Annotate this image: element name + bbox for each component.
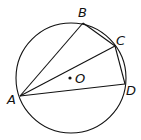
label-b: B xyxy=(78,5,87,20)
segment-bc xyxy=(83,23,115,46)
segment-cd xyxy=(115,46,125,84)
segment-da xyxy=(20,84,125,96)
segment-ac xyxy=(20,46,115,96)
label-o: O xyxy=(75,71,85,86)
label-c: C xyxy=(116,33,126,48)
geometry-diagram: A B C D O xyxy=(0,0,141,140)
label-d: D xyxy=(126,83,136,98)
center-point-o xyxy=(68,76,71,79)
label-a: A xyxy=(6,92,16,107)
segment-ab xyxy=(20,23,83,96)
